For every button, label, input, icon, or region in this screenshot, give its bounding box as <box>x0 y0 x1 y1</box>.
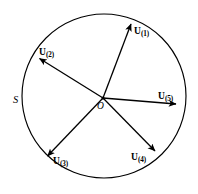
origin-label-o: O <box>97 102 104 112</box>
vector-label-u1: U(1) <box>134 27 149 38</box>
vector-label-u2-subscript: (2) <box>46 51 54 59</box>
vector-label-u3-base: U <box>53 156 60 166</box>
vector-label-u2: U(2) <box>39 48 54 59</box>
vector-label-u5-base: U <box>158 91 165 101</box>
vector-label-u4: U(4) <box>131 153 146 164</box>
vector-label-u5: U(5) <box>158 92 173 103</box>
vector-label-u3: U(3) <box>53 157 68 168</box>
vector-label-u4-subscript: (4) <box>138 156 146 164</box>
vector-label-u1-base: U <box>134 26 141 36</box>
vector-label-u3-subscript: (3) <box>60 160 68 168</box>
vector-label-u2-base: U <box>39 47 46 57</box>
vector-label-u1-subscript: (1) <box>141 30 149 38</box>
origin-point <box>102 97 105 100</box>
vector-label-u5-subscript: (5) <box>165 95 173 103</box>
region-label-s: S <box>13 95 18 106</box>
vector-label-u4-base: U <box>131 152 138 162</box>
vector-diagram-figure: S O U(1) U(2) U(3) U(4) U(5) <box>0 0 198 194</box>
